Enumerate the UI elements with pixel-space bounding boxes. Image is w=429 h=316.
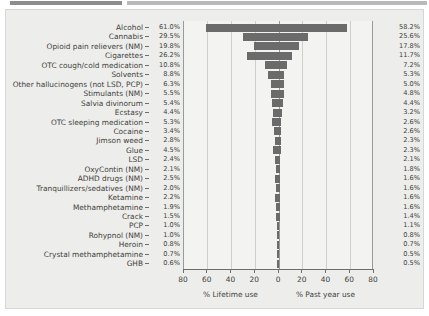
category-tick	[145, 55, 149, 56]
bar-lifetime	[268, 71, 278, 79]
category-tick	[145, 46, 149, 47]
bar-past-year	[278, 137, 281, 145]
bar-past-year	[278, 194, 280, 202]
category-tick	[145, 150, 149, 151]
bar-lifetime	[206, 24, 278, 32]
bar-past-year	[278, 260, 279, 268]
category-tick	[145, 112, 149, 113]
x-axis-tick-label: 80	[361, 275, 385, 285]
category-tick	[145, 65, 149, 66]
x-axis-tick-label: 40	[314, 275, 338, 285]
x-axis-tick-label: 60	[195, 275, 219, 285]
bar-past-year	[278, 156, 280, 164]
x-axis-tick	[325, 269, 326, 273]
category-tick	[145, 74, 149, 75]
x-axis-tick-label: 40	[219, 275, 243, 285]
category-tick	[145, 103, 149, 104]
category-tick	[145, 27, 149, 28]
category-tick	[145, 159, 149, 160]
category-tick	[145, 188, 149, 189]
decorative-top-band	[0, 0, 429, 6]
chart-row: GHB0.6%0.5%	[5, 258, 424, 269]
x-axis-tick-label: 0	[266, 275, 290, 285]
x-axis-tick-label: 20	[290, 275, 314, 285]
bar-lifetime	[265, 61, 278, 69]
bar-past-year	[278, 80, 284, 88]
x-axis-tick-label: 60	[337, 275, 361, 285]
bar-past-year	[278, 118, 281, 126]
x-axis-tick-label: 20	[242, 275, 266, 285]
bar-past-year	[278, 184, 280, 192]
category-tick	[145, 263, 149, 264]
category-tick	[145, 225, 149, 226]
value-label-past-year: 0.5%	[376, 258, 420, 269]
category-tick	[145, 197, 149, 198]
x-axis-tick	[230, 269, 231, 273]
category-tick	[145, 93, 149, 94]
figure-root: Alcohol61.0%58.2%Cannabis29.5%25.6%Opioi…	[0, 0, 429, 316]
x-axis-title-right: % Past year use	[278, 290, 373, 300]
bar-lifetime	[271, 80, 278, 88]
x-axis-tick	[349, 269, 350, 273]
x-axis-tick	[206, 269, 207, 273]
bar-past-year	[278, 241, 279, 249]
value-label-lifetime: 0.6%	[151, 258, 180, 269]
bar-past-year	[278, 71, 284, 79]
bar-past-year	[278, 175, 280, 183]
category-tick	[145, 235, 149, 236]
bar-lifetime	[247, 52, 278, 60]
category-tick	[145, 254, 149, 255]
bar-past-year	[278, 222, 279, 230]
x-axis-tick	[278, 269, 279, 273]
bar-past-year	[278, 213, 280, 221]
x-axis-tick	[254, 269, 255, 273]
bar-past-year	[278, 24, 347, 32]
top-band-segment-right	[127, 1, 427, 5]
category-tick	[145, 216, 149, 217]
category-tick	[145, 178, 149, 179]
x-axis-tick-label: 80	[171, 275, 195, 285]
category-tick	[145, 122, 149, 123]
bar-past-year	[278, 99, 283, 107]
bar-past-year	[278, 61, 287, 69]
bar-past-year	[278, 109, 282, 117]
bar-past-year	[278, 250, 279, 258]
category-tick	[145, 169, 149, 170]
category-tick	[145, 84, 149, 85]
bar-past-year	[278, 33, 308, 41]
bar-past-year	[278, 146, 281, 154]
category-label: GHB	[5, 258, 143, 269]
x-axis-tick	[301, 269, 302, 273]
x-axis-tick	[183, 269, 184, 273]
top-band-segment-left	[10, 1, 122, 5]
bar-past-year	[278, 90, 284, 98]
bar-past-year	[278, 231, 279, 239]
bar-past-year	[278, 52, 292, 60]
bar-lifetime	[254, 42, 278, 50]
category-tick	[145, 207, 149, 208]
bar-lifetime	[243, 33, 278, 41]
category-tick	[145, 244, 149, 245]
x-axis-tick	[373, 269, 374, 273]
category-tick	[145, 36, 149, 37]
category-tick	[145, 140, 149, 141]
x-axis-title-left: % Lifetime use	[183, 290, 278, 300]
category-tick	[145, 131, 149, 132]
diverging-bar-chart: Alcohol61.0%58.2%Cannabis29.5%25.6%Opioi…	[5, 9, 424, 309]
bar-past-year	[278, 203, 280, 211]
bar-past-year	[278, 127, 281, 135]
bar-past-year	[278, 42, 299, 50]
bar-past-year	[278, 165, 280, 173]
